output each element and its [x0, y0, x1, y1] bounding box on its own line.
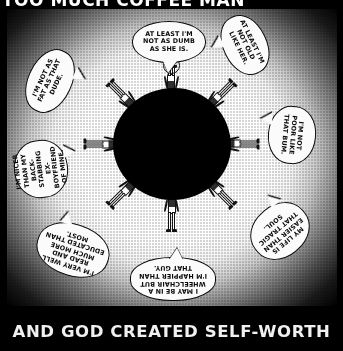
balloon-tail — [169, 248, 183, 260]
balloon-tail — [62, 144, 75, 158]
balloon-text: AT LEAST I'M NOT AS DUMB AS SHE IS. — [138, 31, 200, 54]
foot-left — [166, 229, 171, 232]
foot-right — [84, 145, 87, 150]
foot-left — [257, 145, 260, 150]
title-strip: TOO MUCH COFFEE MAN BY SHANNON WHEELER — [0, 0, 343, 9]
balloon-tail — [260, 111, 273, 125]
central-black-void — [113, 88, 231, 200]
speech-balloon-top-center: AT LEAST I'M NOT AS DUMB AS SHE IS. — [132, 21, 206, 63]
balloon-text: I MAY BE IN A WHEELCHAIR BUT I'M HAPPIER… — [136, 264, 210, 294]
foot-left — [84, 139, 87, 144]
comic-caption: AND GOD CREATED SELF-WORTH — [0, 322, 343, 341]
caption-bar: AND GOD CREATED SELF-WORTH — [0, 316, 343, 351]
foot-right — [172, 229, 177, 232]
comic-title: TOO MUCH COFFEE MAN — [2, 0, 245, 9]
leg-left — [85, 140, 104, 143]
comic-byline: BY SHANNON WHEELER — [234, 0, 340, 2]
foot-right — [257, 139, 260, 144]
leg-right — [85, 145, 104, 148]
balloon-tail — [163, 61, 177, 73]
balloon-tail — [60, 210, 76, 225]
comic-panel: TOO MUCH COFFEE MAN BY SHANNON WHEELER — [0, 0, 343, 351]
speech-balloon-bottom-center: I MAY BE IN A WHEELCHAIR BUT I'M HAPPIER… — [130, 257, 216, 301]
balloon-text: I'M NOT POOR LIKE THAT BUM. — [279, 111, 306, 159]
artwork-frame: AT LEAST I'M NOT AS DUMB AS SHE IS. AT L… — [5, 9, 338, 316]
balloon-text: I'M NICER THAN MY BACK-STABBING EX-BOYFR… — [12, 143, 70, 195]
